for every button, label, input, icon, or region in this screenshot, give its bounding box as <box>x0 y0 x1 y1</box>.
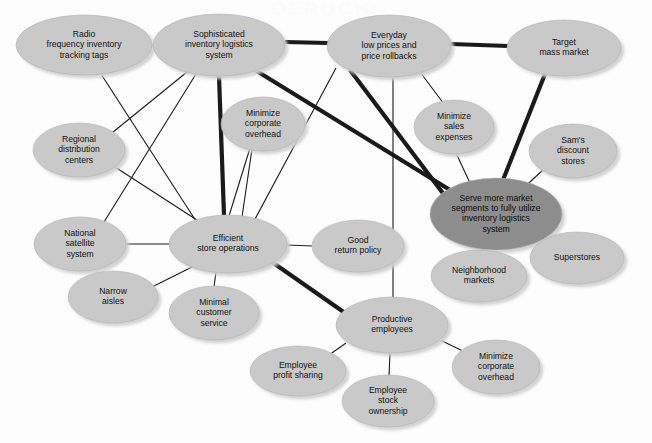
node-minimal_cust[interactable]: Minimalcustomerservice <box>169 286 259 340</box>
edge-efficient-to-minimal_cust <box>214 272 216 287</box>
node-shape-narrow[interactable] <box>68 271 158 323</box>
edge-sophisticated-to-everyday <box>285 42 328 43</box>
node-minimize_corp_bottom[interactable]: Minimizecorporateoverhead <box>452 340 540 394</box>
node-shape-sophisticated[interactable] <box>153 14 285 76</box>
edge-efficient-to-good_return <box>287 245 312 246</box>
edge-efficient-to-narrow <box>150 265 196 288</box>
edge-everyday-to-target <box>451 44 508 46</box>
node-shape-target[interactable] <box>507 20 621 76</box>
node-shape-minimize_sales[interactable] <box>414 100 494 154</box>
node-superstores[interactable]: Superstores <box>530 232 624 284</box>
node-productive[interactable]: Productiveemployees <box>336 297 448 353</box>
node-shape-everyday[interactable] <box>327 15 451 77</box>
node-neighborhood[interactable]: Neighborhoodmarkets <box>431 250 527 302</box>
node-shape-national_sat[interactable] <box>34 217 126 271</box>
activity-system-map: Radiofrequency inventorytracking tagsSop… <box>0 0 652 443</box>
node-shape-superstores[interactable] <box>530 232 624 284</box>
edge-efficient-to-productive <box>272 262 345 313</box>
node-shape-productive[interactable] <box>336 297 448 353</box>
edge-sophisticated-to-regional <box>107 72 187 137</box>
edge-regional-to-efficient <box>115 167 200 222</box>
node-everyday[interactable]: Everydaylow prices andprice rollbacks <box>327 15 451 77</box>
node-shape-minimize_corp_bottom[interactable] <box>452 340 540 394</box>
node-target[interactable]: Targetmass market <box>507 20 621 76</box>
node-shape-serve_more[interactable] <box>430 178 562 250</box>
node-sophisticated[interactable]: Sophisticatedinventory logisticssystem <box>153 14 285 76</box>
node-good_return[interactable]: Goodreturn policy <box>312 220 404 272</box>
node-shape-emp_stock[interactable] <box>342 375 434 427</box>
edge-sophisticated-to-efficient <box>219 76 224 215</box>
node-national_sat[interactable]: Nationalsatellitesystem <box>34 217 126 271</box>
edge-minimize_sales-to-serve_more <box>456 153 470 183</box>
node-serve_more[interactable]: Serve more marketsegments to fully utili… <box>430 178 562 250</box>
edge-everyday-to-minimize_sales <box>420 72 444 104</box>
node-sams[interactable]: Sam'sdiscountstores <box>529 124 617 178</box>
node-efficient[interactable]: Efficientstore operations <box>169 215 287 273</box>
diagram-canvas: DERUCHI Radiofrequency inventorytracking… <box>0 0 652 443</box>
node-shape-neighborhood[interactable] <box>431 250 527 302</box>
node-shape-minimize_corp_top[interactable] <box>221 97 305 151</box>
node-layer: Radiofrequency inventorytracking tagsSop… <box>16 14 624 427</box>
node-shape-regional[interactable] <box>33 123 125 177</box>
node-shape-emp_profit[interactable] <box>250 346 346 396</box>
edge-productive-to-emp_stock <box>389 353 390 376</box>
node-minimize_sales[interactable]: Minimizesalesexpenses <box>414 100 494 154</box>
node-shape-sams[interactable] <box>529 124 617 178</box>
node-shape-radio[interactable] <box>16 15 152 75</box>
node-radio[interactable]: Radiofrequency inventorytracking tags <box>16 15 152 75</box>
node-narrow[interactable]: Narrowaisles <box>68 271 158 323</box>
node-emp_profit[interactable]: Employeeprofit sharing <box>250 346 346 396</box>
node-shape-efficient[interactable] <box>169 215 287 273</box>
node-shape-good_return[interactable] <box>312 220 404 272</box>
node-regional[interactable]: Regionaldistributioncenters <box>33 123 125 177</box>
node-minimize_corp_top[interactable]: Minimizecorporateoverhead <box>221 97 305 151</box>
node-emp_stock[interactable]: Employeestockownership <box>342 375 434 427</box>
node-shape-minimal_cust[interactable] <box>169 286 259 340</box>
